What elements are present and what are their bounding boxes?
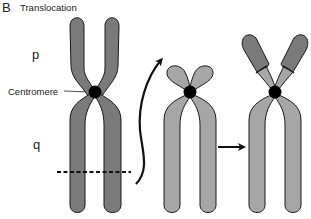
translocated-segment-right: [281, 35, 308, 72]
q-arm-right: [190, 95, 216, 213]
centromere-derivative: [269, 86, 282, 99]
q-arm-right: [275, 95, 301, 213]
q-arm-left: [164, 95, 190, 213]
original-chromosome: [70, 18, 121, 213]
centromere-original: [89, 86, 102, 99]
q-arm-left: [70, 94, 95, 213]
translocated-segment-left: [242, 35, 269, 72]
derivative-chromosome: [242, 35, 308, 213]
curved-arrow-icon: [136, 60, 161, 184]
p-arm-right: [95, 18, 119, 96]
q-arm-left: [249, 95, 275, 213]
q-arm-right: [95, 94, 121, 213]
translocation-diagram: [0, 0, 311, 219]
p-arm-left: [70, 18, 95, 96]
centromere-recipient: [184, 86, 197, 99]
